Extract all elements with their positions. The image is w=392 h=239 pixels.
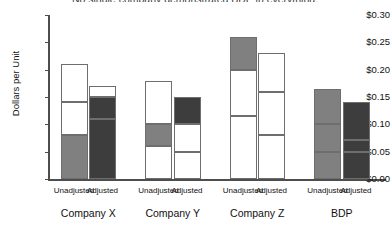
bar-company-y-unadjusted	[145, 15, 172, 179]
bar-company-y-adjusted	[174, 15, 201, 179]
bar-segment	[61, 135, 88, 179]
bar-bdp-unadjusted	[314, 15, 341, 179]
x-sub-label: Adjusted	[80, 186, 125, 195]
bar-segment	[61, 64, 88, 102]
bar-segment	[314, 152, 341, 179]
x-sub-label: Adjusted	[165, 186, 210, 195]
bar-segment	[145, 124, 172, 146]
bar-segment	[89, 86, 116, 97]
bar-segment	[258, 135, 285, 179]
bar-segment	[145, 81, 172, 125]
chart-title: No single company demonstrated BDP in ev…	[0, 0, 390, 2]
bar-segment	[230, 37, 257, 70]
x-sub-label: Adjusted	[249, 186, 294, 195]
bar-segment	[174, 152, 201, 179]
bar-company-x-adjusted	[89, 15, 116, 179]
bar-segment	[343, 140, 370, 152]
x-group-label: BDP	[292, 207, 392, 219]
y-axis-title: Dollars per Unit	[10, 14, 21, 154]
plot-area	[48, 15, 386, 179]
bar-bdp-adjusted	[343, 15, 370, 179]
bar-segment	[174, 124, 201, 151]
bar-segment	[145, 146, 172, 179]
bar-segment	[174, 97, 201, 124]
bar-company-z-unadjusted	[230, 15, 257, 179]
bar-segment	[343, 152, 370, 179]
bar-segment	[314, 124, 341, 151]
bar-segment	[343, 102, 370, 139]
bar-segment	[230, 70, 257, 116]
x-axis-line	[48, 179, 386, 181]
x-sub-label: Adjusted	[334, 186, 379, 195]
bar-segment	[89, 97, 116, 119]
bar-company-z-adjusted	[258, 15, 285, 179]
bar-segment	[258, 53, 285, 91]
bar-company-x-unadjusted	[61, 15, 88, 179]
bar-segment	[89, 119, 116, 179]
bar-segment	[314, 89, 341, 125]
bar-segment	[61, 102, 88, 135]
bar-segment	[258, 92, 285, 136]
y-tick-mark	[45, 179, 49, 180]
bar-segment	[230, 116, 257, 179]
